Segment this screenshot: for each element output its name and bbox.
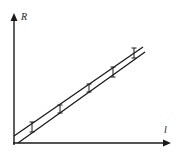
data-points xyxy=(30,48,137,132)
y-axis-arrow-icon xyxy=(11,13,18,21)
error-bar xyxy=(30,122,35,132)
min-gradient-line xyxy=(14,47,143,136)
y-axis-label: R xyxy=(21,11,27,22)
r-vs-l-graph xyxy=(0,0,178,153)
max-gradient-line xyxy=(18,52,145,143)
x-axis-label: l xyxy=(164,124,167,135)
x-axis-arrow-icon xyxy=(163,140,171,147)
error-bar xyxy=(132,48,137,58)
best-fit-lines xyxy=(14,47,145,143)
